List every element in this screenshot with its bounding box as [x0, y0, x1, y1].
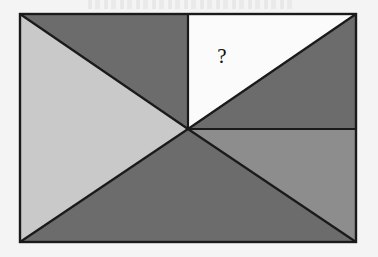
geometry-figure: ? [0, 0, 378, 257]
figure-page: ? [0, 0, 378, 257]
question-mark-label: ? [217, 44, 226, 68]
